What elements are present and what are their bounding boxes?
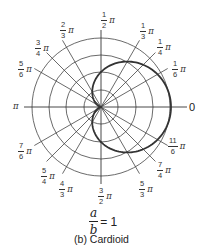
label-5-3-pi: 53π [139, 180, 153, 198]
label-4-3-pi: 43π [59, 180, 73, 198]
label-1-4-pi: 14π [157, 38, 171, 56]
radial-line [101, 40, 140, 107]
label-1-6-pi: 16π [172, 60, 186, 78]
radial-line [63, 40, 102, 107]
label-3-2-pi: 32π [98, 187, 112, 205]
label-2-3-pi: 23π [60, 21, 74, 39]
ratio-equals: = 1 [100, 215, 117, 229]
label-3-4-pi: 34π [35, 39, 49, 57]
label-7-6-pi: 76π [18, 142, 32, 160]
label-7-4-pi: 74π [157, 161, 171, 179]
label-5-6-pi: 56π [18, 60, 32, 78]
label-1-2-pi: 12π [101, 11, 115, 29]
label-5-4-pi: 54π [41, 167, 55, 185]
figure-caption: (b) Cardioid [0, 233, 203, 245]
radial-line [63, 107, 102, 174]
label-11-6-pi: 116π [168, 137, 185, 155]
radial-line [101, 107, 140, 174]
radial-line [34, 107, 101, 146]
radial-line [34, 69, 101, 108]
label-pi: π [13, 102, 19, 111]
label-zero: 0 [189, 101, 195, 113]
label-1-3-pi: 13π [140, 22, 154, 40]
